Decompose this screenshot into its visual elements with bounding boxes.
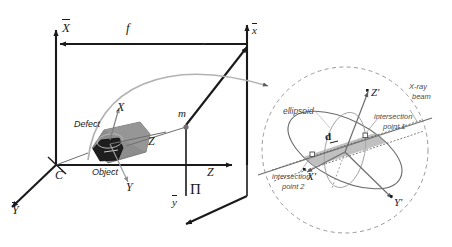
ellipsoid-label: ellipsoid xyxy=(283,106,314,116)
intersection-point-1-marker xyxy=(363,133,368,138)
intersection-point-2-marker xyxy=(310,152,315,157)
image-plane-x-axis-label: x xyxy=(252,24,257,36)
intersection-point-1-label-line1: intersection xyxy=(374,112,412,121)
detail-y-axis-dot xyxy=(390,195,393,198)
world-z-axis-label: Z xyxy=(207,165,214,180)
detail-z-axis-label: Z' xyxy=(371,86,379,98)
detail-y-axis-label: Y' xyxy=(394,196,402,208)
detail-y-axis xyxy=(345,152,392,198)
image-plane-y-axis-label: y xyxy=(172,196,177,208)
image-plane-y-axis xyxy=(186,196,247,224)
object-y-axis-label: Y xyxy=(126,180,133,195)
projection-ray-near xyxy=(56,153,88,165)
plane-helper xyxy=(186,25,247,52)
defect-label: Defect xyxy=(74,119,100,129)
ellipsoid-label-leader xyxy=(316,112,330,128)
xray-beam-label-line2: beam xyxy=(412,92,431,101)
object-x-axis-label: X xyxy=(117,100,124,115)
object-z-axis-label: Z xyxy=(148,134,155,149)
intersection-point-1-label-line2: point 1 xyxy=(383,122,406,131)
projected-point-label: m xyxy=(178,107,186,119)
projected-point-m xyxy=(183,124,188,129)
intersection-point-2-label-line1: intersection xyxy=(272,172,310,181)
image-plane-diagonal-edge xyxy=(186,47,247,125)
world-y-axis-label: Y xyxy=(12,203,19,218)
detail-x-axis-label: X' xyxy=(307,170,316,182)
chord-d-tick xyxy=(330,141,338,143)
focal-length-label: f xyxy=(126,20,130,36)
object-label: Object xyxy=(92,167,118,177)
image-plane-label: Π xyxy=(190,181,201,198)
world-y-axis xyxy=(12,165,56,207)
detail-z-axis-dot xyxy=(366,89,369,92)
world-x-axis-label: X xyxy=(62,20,70,36)
detail-x-axis-dot xyxy=(303,168,306,171)
intersection-point-2-label-line2: point 2 xyxy=(282,182,305,191)
figure-root: X f Y Z C x y Π m X Y Z Defect Object el… xyxy=(0,0,452,247)
camera-origin-label: C xyxy=(55,168,63,183)
xray-beam-label-line1: X-ray xyxy=(409,82,427,91)
chord-length-label: d xyxy=(325,130,331,142)
